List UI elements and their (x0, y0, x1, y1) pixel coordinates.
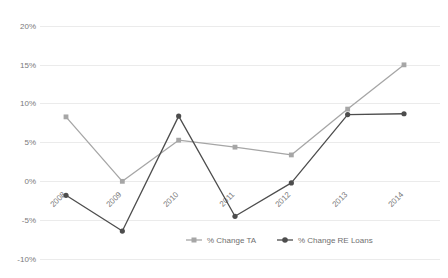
y-tick-label: 0% (24, 177, 36, 186)
y-tick-label: 15% (20, 61, 36, 70)
data-point (120, 179, 125, 184)
chart-canvas: 20% 15% 10% 5% 0% -5% -10% 2008 2009 201… (0, 0, 448, 278)
y-tick-label: 5% (24, 138, 36, 147)
data-point (120, 228, 125, 233)
data-point (64, 114, 69, 119)
data-point (176, 138, 181, 143)
data-point (402, 62, 407, 67)
data-point (176, 113, 181, 118)
y-tick-label: 20% (20, 22, 36, 31)
line-chart: 20% 15% 10% 5% 0% -5% -10% 2008 2009 201… (0, 0, 448, 278)
y-tick-label: -5% (22, 216, 36, 225)
legend-marker-re (282, 237, 288, 243)
data-point (233, 145, 238, 150)
data-point (345, 112, 350, 117)
y-tick-label: -10% (17, 255, 36, 264)
data-point (232, 214, 237, 219)
data-point (289, 153, 294, 158)
data-point (63, 193, 68, 198)
legend-label-re: % Change RE Loans (298, 236, 373, 245)
legend-label-ta: % Change TA (207, 236, 257, 245)
legend-marker-ta (192, 238, 197, 243)
data-point (345, 107, 350, 112)
y-tick-label: 10% (20, 99, 36, 108)
data-point (401, 111, 406, 116)
data-point (289, 180, 294, 185)
